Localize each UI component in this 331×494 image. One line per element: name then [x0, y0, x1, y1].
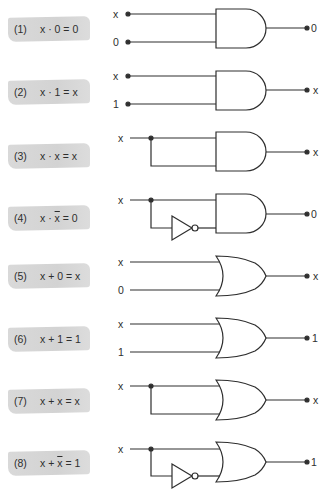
inverter-bubble-icon: [192, 473, 198, 479]
inverter-bubble-icon: [192, 225, 198, 231]
or-gate-circuit-8: x 1: [118, 442, 317, 488]
output-label: x: [313, 270, 319, 282]
input-label: 0: [118, 284, 124, 296]
and-gate-circuit-4: x 0: [118, 194, 317, 240]
and-gate-circuit-3: x x: [118, 132, 319, 171]
and-gate-icon: [216, 132, 266, 171]
input-label: x: [118, 132, 124, 144]
input-label: 1: [113, 98, 119, 110]
output-terminal-icon: [305, 212, 309, 216]
input-label: x: [118, 380, 124, 392]
inverter-icon: [172, 216, 192, 240]
output-terminal-icon: [305, 336, 309, 340]
or-gate-icon: [216, 318, 266, 358]
or-gate-icon: [216, 256, 266, 296]
or-gate-circuit-5: x 0 x: [118, 256, 319, 296]
or-gate-icon: [216, 442, 266, 482]
output-terminal-icon: [305, 150, 309, 154]
input-label: x: [118, 318, 124, 330]
input-label: x: [118, 194, 124, 206]
output-terminal-icon: [305, 26, 309, 30]
input-label: 0: [113, 36, 119, 48]
output-terminal-icon: [305, 88, 309, 92]
and-gate-icon: [216, 194, 266, 233]
circuit-diagram: x 0 0 x 1 x x x x: [0, 0, 331, 494]
output-terminal-icon: [305, 460, 309, 464]
and-gate-circuit-1: x 0 0: [113, 8, 317, 48]
and-gate-icon: [216, 71, 266, 110]
or-gate-circuit-7: x x: [118, 380, 319, 420]
output-label: 0: [311, 208, 317, 220]
or-gate-circuit-6: x 1 1: [118, 318, 318, 358]
output-label: 1: [311, 456, 317, 468]
input-label: x: [113, 8, 119, 20]
and-gate-circuit-2: x 1 x: [113, 70, 319, 110]
input-label: 1: [118, 346, 124, 358]
output-terminal-icon: [305, 398, 309, 402]
input-label: x: [118, 443, 124, 455]
output-label: x: [313, 394, 319, 406]
output-label: x: [313, 146, 319, 158]
and-gate-icon: [216, 9, 266, 48]
output-label: 1: [312, 332, 318, 344]
input-label: x: [118, 256, 124, 268]
output-terminal-icon: [305, 274, 309, 278]
or-gate-icon: [216, 380, 266, 420]
output-label: x: [313, 84, 319, 96]
inverter-icon: [172, 464, 192, 488]
output-label: 0: [311, 22, 317, 34]
input-label: x: [113, 70, 119, 82]
